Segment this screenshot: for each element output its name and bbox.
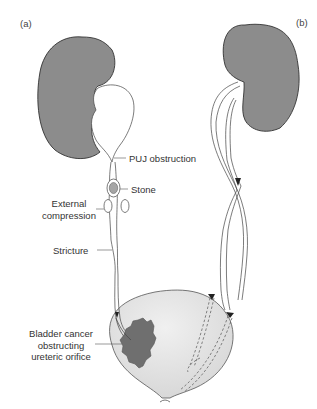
label-bladder-cancer: Bladder cancer obstructing ureteric orif…: [26, 328, 96, 363]
external-compression-left: [104, 200, 112, 213]
stone: [109, 183, 117, 194]
label-stone: Stone: [131, 184, 156, 196]
urinary-obstruction-diagram: (a) (b) PUJ obstruction Stone External c…: [0, 0, 317, 409]
label-external-compression: External compression: [42, 198, 96, 221]
panel-label-a: (a): [20, 18, 32, 30]
kidney-right: [223, 24, 299, 131]
ureter-b-outer-1: [211, 82, 244, 300]
label-puj-obstruction: PUJ obstruction: [129, 153, 196, 165]
panel-label-b: (b): [296, 17, 308, 29]
urethra: [160, 400, 170, 402]
ureter-b-inner-2: [226, 100, 241, 310]
label-stricture: Stricture: [53, 245, 88, 257]
external-compression-right: [121, 200, 129, 213]
